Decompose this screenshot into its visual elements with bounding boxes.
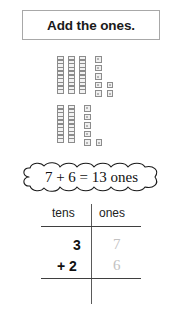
tens-rod-cell (57, 138, 64, 142)
tens-rod (57, 56, 64, 93)
tens-rod (79, 56, 86, 93)
tens-digit-top: 3 (73, 237, 81, 253)
ones-unit-row (95, 56, 118, 63)
addend-1-blocks (57, 56, 118, 99)
tens-rod (68, 105, 75, 142)
column-header-tens: tens (52, 206, 75, 220)
ones-unit-row (84, 105, 107, 112)
tens-digit-bottom-with-operator: + 2 (57, 258, 77, 274)
tens-rod (68, 56, 75, 93)
ones-unit-cube (107, 90, 114, 97)
addend-1-ones-units (95, 56, 118, 99)
tens-rod-cell (68, 89, 75, 93)
ones-unit-row (84, 114, 107, 121)
page-title: Add the ones. (47, 18, 135, 33)
ones-digit-top: 7 (113, 236, 121, 253)
ones-unit-cube (96, 139, 103, 146)
ones-unit-cube (107, 82, 114, 89)
place-value-table: tens ones 3 7 + 2 6 (0, 200, 183, 314)
ones-unit-cube (95, 90, 102, 97)
ones-unit-cube (84, 114, 91, 121)
addend-2-blocks (57, 105, 107, 148)
ones-unit-cube (84, 105, 91, 112)
ones-unit-row (95, 65, 118, 72)
ones-unit-cube (95, 65, 102, 72)
place-value-sum-rule (41, 278, 141, 279)
ones-unit-cube (95, 73, 102, 80)
instruction-box: Add the ones. (22, 10, 160, 40)
ones-unit-cube (95, 56, 102, 63)
tens-rod-cell (57, 89, 64, 93)
ones-unit-row (95, 90, 118, 97)
addend-2-ones-units (84, 105, 107, 148)
ones-sum-equation: 7 + 6 = 13 ones (13, 158, 170, 196)
ones-unit-row (84, 139, 107, 146)
column-header-ones: ones (99, 206, 125, 220)
ones-unit-row (95, 82, 118, 89)
ones-unit-cube (84, 122, 91, 129)
ones-digit-bottom: 6 (113, 257, 121, 274)
tens-rod (57, 105, 64, 142)
ones-sum-callout: 7 + 6 = 13 ones (13, 158, 170, 196)
ones-unit-cube (84, 139, 91, 146)
place-value-column-divider (91, 204, 92, 304)
ones-unit-row (84, 131, 107, 138)
ones-unit-row (95, 73, 118, 80)
ones-unit-cube (84, 131, 91, 138)
base-ten-blocks-area (0, 55, 183, 155)
tens-rod-cell (68, 138, 75, 142)
tens-rod-cell (79, 89, 86, 93)
ones-unit-cube (95, 82, 102, 89)
addend-1-tens-rods (57, 56, 90, 93)
place-value-header-rule (41, 226, 141, 227)
ones-unit-row (84, 122, 107, 129)
addend-2-tens-rods (57, 105, 79, 142)
